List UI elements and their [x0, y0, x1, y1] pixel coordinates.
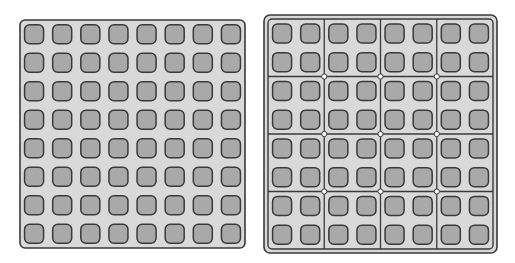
grid-cell — [53, 25, 72, 44]
grid-cell — [357, 139, 376, 158]
grid-cell — [469, 225, 488, 244]
grid-cell — [81, 196, 100, 215]
grid-cell — [81, 110, 100, 129]
grid-cell — [25, 224, 44, 243]
grid-cell — [109, 196, 128, 215]
grid-cell — [385, 53, 404, 72]
junction-dot — [378, 74, 383, 79]
grid-cell — [221, 25, 240, 44]
grid-cell — [25, 167, 44, 186]
grid-cell — [385, 196, 404, 215]
grid-cell — [137, 139, 156, 158]
grid-cell — [441, 110, 460, 129]
diagram-canvas — [0, 0, 515, 263]
grid-cell — [25, 25, 44, 44]
grid-cell — [193, 139, 212, 158]
grid-cell — [273, 225, 292, 244]
grid-cell — [413, 196, 432, 215]
grid-cell — [385, 81, 404, 100]
grid-cell — [25, 196, 44, 215]
grid-cell — [53, 82, 72, 101]
grid-cell — [413, 81, 432, 100]
junction-dot — [434, 189, 439, 194]
grid-cell — [469, 81, 488, 100]
grid-cell — [329, 81, 348, 100]
grid-cell — [221, 196, 240, 215]
grid-cell — [273, 110, 292, 129]
grid-cell — [109, 139, 128, 158]
grid-cell — [469, 110, 488, 129]
grid-cell — [301, 81, 320, 100]
grid-cell — [81, 25, 100, 44]
grid-cell — [109, 25, 128, 44]
grid-cell — [193, 53, 212, 72]
grid-cell — [301, 139, 320, 158]
grid-cell — [441, 53, 460, 72]
grid-cell — [357, 53, 376, 72]
junction-dot — [378, 131, 383, 136]
grid-cell — [193, 110, 212, 129]
grid-cell — [357, 168, 376, 187]
grid-cell — [385, 225, 404, 244]
grid-cell — [165, 167, 184, 186]
grid-cell — [137, 53, 156, 72]
grid-cell — [385, 168, 404, 187]
grid-cell — [81, 82, 100, 101]
grid-cell — [137, 82, 156, 101]
grid-cell — [109, 224, 128, 243]
grid-cell — [441, 225, 460, 244]
grid-cell — [81, 167, 100, 186]
grid-cell — [221, 82, 240, 101]
grid-cell — [469, 168, 488, 187]
grid-cell — [301, 168, 320, 187]
grid-cell — [109, 167, 128, 186]
grid-cell — [329, 24, 348, 43]
junction-dot — [322, 74, 327, 79]
grid-cell — [273, 139, 292, 158]
right-grid-panel — [264, 15, 497, 253]
grid-cell — [413, 53, 432, 72]
grid-cell — [413, 168, 432, 187]
grid-cell — [165, 196, 184, 215]
grid-cell — [273, 53, 292, 72]
junction-dot — [434, 74, 439, 79]
grid-cell — [329, 139, 348, 158]
grid-cell — [469, 53, 488, 72]
grid-cell — [441, 81, 460, 100]
grid-cell — [221, 53, 240, 72]
grid-cell — [25, 139, 44, 158]
grid-cell — [193, 25, 212, 44]
grid-cell — [165, 53, 184, 72]
grid-cell — [193, 196, 212, 215]
grid-cell — [413, 225, 432, 244]
grid-cell — [301, 225, 320, 244]
grid-cell — [273, 24, 292, 43]
grid-cell — [165, 224, 184, 243]
grid-cell — [193, 82, 212, 101]
grid-cell — [273, 196, 292, 215]
grid-cell — [109, 110, 128, 129]
grid-cell — [221, 139, 240, 158]
junction-dot — [322, 189, 327, 194]
grid-cell — [81, 139, 100, 158]
grid-cell — [441, 24, 460, 43]
grid-cell — [329, 196, 348, 215]
grid-cell — [357, 81, 376, 100]
grid-cell — [329, 53, 348, 72]
grid-cell — [469, 196, 488, 215]
grid-cell — [273, 81, 292, 100]
grid-cell — [137, 110, 156, 129]
grid-cell — [273, 168, 292, 187]
grid-cell — [165, 82, 184, 101]
grid-cell — [165, 110, 184, 129]
grid-cell — [301, 196, 320, 215]
grid-cell — [357, 196, 376, 215]
grid-cell — [329, 168, 348, 187]
grid-cell — [357, 225, 376, 244]
grid-cell — [25, 110, 44, 129]
grid-cell — [385, 24, 404, 43]
grid-cell — [221, 110, 240, 129]
grid-cell — [329, 110, 348, 129]
grid-cell — [25, 53, 44, 72]
grid-cell — [385, 110, 404, 129]
